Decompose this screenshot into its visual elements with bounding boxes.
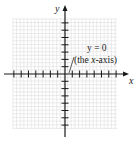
y-axis-arrow-icon <box>63 5 68 11</box>
annotation-description: (the x-axis) <box>74 55 117 66</box>
description-suffix: -axis) <box>95 55 117 66</box>
x-axis-label: x <box>128 75 134 86</box>
equation-label: y = 0 <box>87 43 107 53</box>
description-prefix: (the <box>74 55 91 66</box>
coordinate-plane: y x y = 0 (the x-axis) <box>0 0 138 141</box>
y-axis-label: y <box>54 3 60 14</box>
